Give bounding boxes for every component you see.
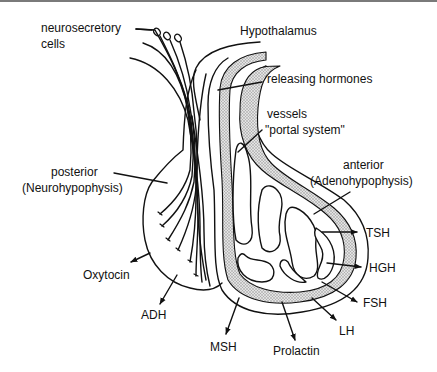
leader-neurosecretory	[136, 29, 152, 30]
arrow-oxytocin	[131, 253, 150, 262]
arrow-prolactin	[282, 302, 295, 340]
label-releasing-hormones: releasing hormones	[267, 72, 372, 86]
label-neurosecretory: neurosecretory	[41, 21, 121, 35]
axon-5	[143, 43, 196, 262]
label-msh: MSH	[210, 340, 237, 354]
label-anterior: anterior	[343, 158, 384, 172]
label-portal-system: "portal system"	[265, 123, 345, 137]
label-adenohypophysis: (Adenohypophysis)	[310, 174, 413, 188]
pituitary-diagram: neurosecretory cells Hypothalamus releas…	[0, 0, 437, 372]
arrow-adh	[160, 275, 177, 304]
vessel-loop-2	[258, 186, 282, 252]
neurosecretory-cell-3	[173, 33, 183, 43]
vessel-loop-1	[233, 143, 252, 244]
label-prolactin: Prolactin	[273, 344, 320, 358]
label-hgh: HGH	[369, 261, 396, 275]
axon-terminals	[158, 212, 198, 276]
label-vessels: vessels	[267, 107, 307, 121]
label-posterior: posterior	[51, 165, 98, 179]
label-tsh: TSH	[366, 226, 390, 240]
vessel-loop-5	[315, 228, 335, 279]
label-lh: LH	[339, 324, 354, 338]
label-fsh: FSH	[363, 296, 387, 310]
label-oxytocin: Oxytocin	[83, 268, 130, 282]
label-neurohypophysis: (Neurohypophysis)	[22, 181, 123, 195]
label-hypothalamus: Hypothalamus	[240, 24, 317, 38]
label-adh: ADH	[141, 308, 166, 322]
label-cells: cells	[41, 37, 65, 51]
arrow-msh	[226, 298, 239, 334]
